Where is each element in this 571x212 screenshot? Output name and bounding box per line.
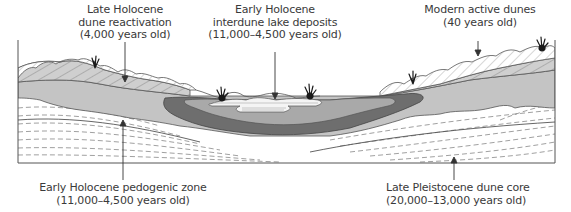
label-pleistocene-dune-core: Late Pleistocene dune core (20,000–13,00… [386,182,526,207]
label-line: Late Pleistocene dune core [386,182,526,195]
label-line: Late Holocene [60,4,190,17]
label-line: (40 years old) [418,17,542,30]
label-line: (20,000–13,000 years old) [386,195,526,208]
label-modern-active-dunes: Modern active dunes (40 years old) [418,4,542,29]
label-line: (11,000–4,500 years old) [200,29,350,42]
label-line: Early Holocene [200,4,350,17]
label-line: Modern active dunes [418,4,542,17]
label-line: (11,000–4,500 years old) [38,195,208,208]
label-line: Early Holocene pedogenic zone [38,182,208,195]
label-pedogenic-zone: Early Holocene pedogenic zone (11,000–4,… [38,182,208,207]
label-interdune-lake-deposits: Early Holocene interdune lake deposits (… [200,4,350,42]
label-line: (4,000 years old) [60,29,190,42]
arrow-pleistocene [451,157,457,180]
label-late-holocene-reactivation: Late Holocene dune reactivation (4,000 y… [60,4,190,42]
